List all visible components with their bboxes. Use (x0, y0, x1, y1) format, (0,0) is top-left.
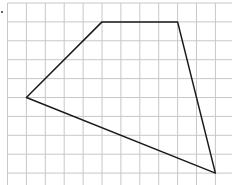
grid-diagram (0, 0, 232, 185)
bullet-marker (1, 11, 3, 13)
grid-lines (8, 3, 233, 185)
